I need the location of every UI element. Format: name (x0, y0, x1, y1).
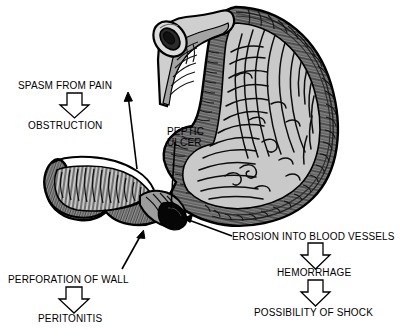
label-peritonitis: PERITONITIS (38, 313, 102, 324)
label-spasm-from-pain: SPASM FROM PAIN (18, 80, 112, 91)
diagram-canvas: SPASM FROM PAIN OBSTRUCTION PEPTIC ULCER… (0, 0, 400, 329)
label-possibility-of-shock: POSSIBILITY OF SHOCK (254, 307, 373, 318)
label-peptic-ulcer-line2: ULCER (167, 137, 202, 148)
label-hemorrhage: HEMORRHAGE (277, 267, 351, 278)
label-erosion-into-blood-vessels: EROSION INTO BLOOD VESSELS (232, 231, 395, 242)
label-obstruction: OBSTRUCTION (28, 120, 102, 131)
label-perforation-of-wall: PERFORATION OF WALL (8, 274, 129, 285)
label-peptic-ulcer-line1: PEPTIC (167, 126, 204, 137)
